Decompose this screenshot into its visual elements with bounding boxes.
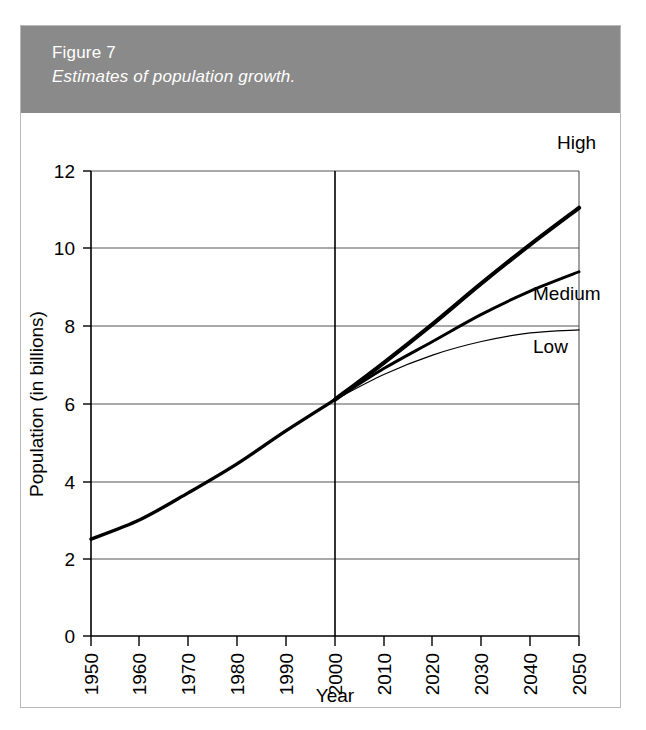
x-tick-label: 1970 xyxy=(178,653,199,695)
y-axis-tick-labels: 12 10 8 6 4 2 0 xyxy=(54,161,76,647)
chart-plot-area: 12 10 8 6 4 2 0 Population (in billions) xyxy=(21,113,620,707)
x-tick-label: 2020 xyxy=(422,653,443,695)
x-tick-label: 2040 xyxy=(520,653,541,695)
y-axis-ticks xyxy=(83,171,91,636)
figure-container: Figure 7 Estimates of population growth. xyxy=(20,25,621,708)
population-growth-line-chart: 12 10 8 6 4 2 0 Population (in billions) xyxy=(21,113,620,707)
figure-number: Figure 7 xyxy=(52,43,116,63)
x-axis-ticks xyxy=(91,636,579,646)
figure-header-band: Figure 7 Estimates of population growth. xyxy=(21,26,620,113)
y-tick-label: 6 xyxy=(64,394,75,415)
x-tick-label: 1980 xyxy=(227,653,248,695)
y-tick-label: 0 xyxy=(64,626,75,647)
y-tick-label: 8 xyxy=(64,316,75,337)
series-label-high: High xyxy=(557,132,596,153)
y-axis-title: Population (in billions) xyxy=(26,311,47,497)
x-axis-title: Year xyxy=(316,685,355,706)
series-label-low: Low xyxy=(533,336,568,357)
x-tick-label: 2050 xyxy=(569,653,590,695)
series-line-historical xyxy=(91,400,335,540)
y-tick-label: 12 xyxy=(54,161,75,182)
series-label-medium: Medium xyxy=(533,283,601,304)
figure-caption: Estimates of population growth. xyxy=(52,67,295,87)
x-tick-label: 2030 xyxy=(471,653,492,695)
x-tick-label: 1960 xyxy=(129,653,150,695)
x-tick-label: 2010 xyxy=(374,653,395,695)
x-tick-label: 1990 xyxy=(276,653,297,695)
y-tick-label: 10 xyxy=(54,238,75,259)
y-tick-label: 2 xyxy=(64,549,75,570)
y-tick-label: 4 xyxy=(64,472,75,493)
x-tick-label: 1950 xyxy=(81,653,102,695)
